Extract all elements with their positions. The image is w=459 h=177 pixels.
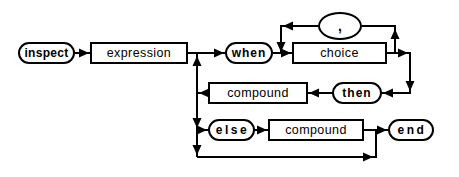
arrow-up-comma-loop bbox=[391, 29, 400, 39]
terminal-end: end bbox=[388, 119, 434, 141]
arrow-after-choice bbox=[398, 49, 408, 58]
arrow-into-compound-then bbox=[309, 89, 319, 98]
nonterminal-compound-else: compound bbox=[268, 119, 364, 141]
nonterminal-compound-then: compound bbox=[208, 82, 308, 104]
arrow-into-expression bbox=[79, 49, 89, 58]
arrow-along-bypass bbox=[363, 153, 373, 162]
arrow-left-comma-loop bbox=[283, 22, 293, 31]
terminal-when: when bbox=[225, 42, 273, 64]
arrow-into-then bbox=[383, 89, 393, 98]
arrow-down-to-bypass bbox=[193, 145, 202, 155]
nonterminal-choice: choice bbox=[292, 42, 387, 64]
arrow-into-choice bbox=[281, 49, 291, 58]
arrow-into-when bbox=[214, 49, 224, 58]
terminal-else: else bbox=[208, 119, 255, 141]
arrow-up-left-rail bbox=[193, 56, 202, 66]
arrow-into-compound-else bbox=[257, 126, 267, 135]
terminal-comma: , bbox=[318, 12, 362, 40]
arrow-into-end bbox=[377, 126, 387, 135]
syntax-diagram: inspect expression when , choice compoun… bbox=[0, 0, 459, 177]
arrow-down-into-then-row bbox=[406, 81, 415, 91]
terminal-inspect: inspect bbox=[18, 42, 75, 64]
nonterminal-expression: expression bbox=[90, 42, 188, 64]
arrow-into-else bbox=[197, 126, 207, 135]
terminal-then: then bbox=[332, 82, 382, 104]
